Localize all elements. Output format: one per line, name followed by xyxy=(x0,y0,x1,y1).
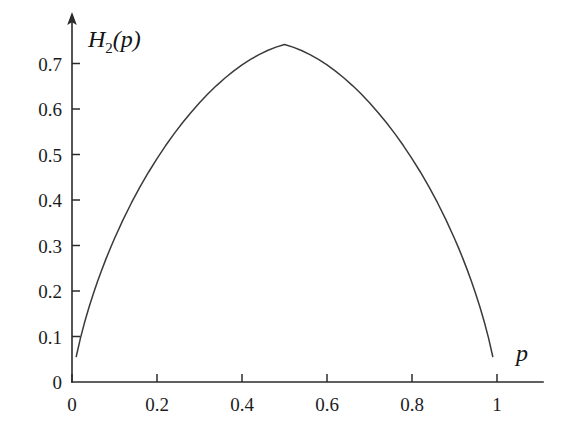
y-tick-label: 0.3 xyxy=(38,236,62,257)
y-tick-labels: 0.7 0.6 0.5 0.4 0.3 0.2 0.1 0 xyxy=(38,54,62,394)
entropy-curve xyxy=(76,44,493,356)
entropy-curve-path xyxy=(76,44,493,356)
svg-text:H2(p): H2(p) xyxy=(87,26,141,56)
x-tick-label: 0 xyxy=(67,394,77,415)
x-tick-marks xyxy=(72,374,497,382)
y-tick-marks xyxy=(72,64,80,337)
y-tick-label: 0.1 xyxy=(38,327,62,348)
x-tick-label: 0.6 xyxy=(315,394,339,415)
y-axis-title-subscript: 2 xyxy=(105,40,113,56)
y-axis-title-base: H xyxy=(87,26,107,52)
y-axis xyxy=(67,12,77,382)
y-tick-label: 0.6 xyxy=(38,99,62,120)
x-tick-labels: 0 0.2 0.4 0.6 0.8 1 xyxy=(67,394,502,415)
x-tick-label: 0.2 xyxy=(145,394,169,415)
x-tick-label: 1 xyxy=(492,394,502,415)
x-axis-title: p xyxy=(514,340,528,366)
x-tick-label: 0.4 xyxy=(230,394,254,415)
y-axis-title: H2(p) xyxy=(87,26,141,56)
y-axis-title-arg: (p) xyxy=(113,26,141,52)
y-tick-label: 0.5 xyxy=(38,145,62,166)
y-tick-label: 0.2 xyxy=(38,281,62,302)
y-tick-label: 0.4 xyxy=(38,190,62,211)
y-tick-label: 0.7 xyxy=(38,54,62,75)
x-tick-label: 0.8 xyxy=(400,394,424,415)
x-axis-title-text: p xyxy=(514,340,528,366)
chart-canvas: 0.7 0.6 0.5 0.4 0.3 0.2 0.1 0 0 0.2 0.4 … xyxy=(0,0,569,439)
entropy-chart-figure: 0.7 0.6 0.5 0.4 0.3 0.2 0.1 0 0 0.2 0.4 … xyxy=(0,0,569,439)
y-tick-label: 0 xyxy=(53,372,63,393)
